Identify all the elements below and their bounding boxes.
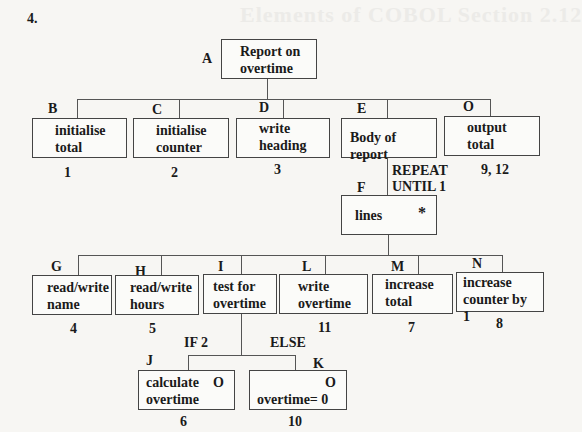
connector	[188, 355, 296, 356]
connector	[267, 79, 268, 99]
node-letter-f: F	[357, 180, 366, 196]
node-text: name	[47, 296, 103, 313]
question-number: 4.	[27, 11, 38, 27]
if-condition: IF 2	[184, 335, 208, 351]
node-text: initialise	[156, 122, 220, 139]
node-overtime-equals-zero: overtime= 0 O	[249, 370, 347, 410]
connector	[241, 314, 242, 355]
step-number: 1	[64, 165, 71, 181]
node-calculate-overtime: calculate overtime O	[138, 370, 235, 410]
connector	[387, 158, 388, 195]
node-letter-l: L	[302, 259, 311, 275]
node-initialise-total: initialise total	[32, 118, 127, 158]
node-body-of-report: Body of report	[341, 118, 437, 158]
connector	[161, 255, 162, 275]
node-text: overtime	[298, 295, 359, 312]
connector	[188, 355, 189, 370]
node-text: write	[298, 278, 359, 295]
connector	[325, 255, 326, 274]
node-write-heading: write heading	[236, 118, 330, 158]
node-letter-c: C	[152, 102, 162, 118]
step-number: 3	[274, 162, 281, 178]
node-text: heading	[259, 137, 321, 154]
condition-text: UNTIL 1	[392, 179, 448, 195]
connector	[387, 99, 388, 118]
iteration-marker-icon: *	[418, 204, 426, 221]
connector	[78, 255, 503, 256]
node-letter-g: G	[51, 259, 62, 275]
step-number: 11	[318, 320, 331, 336]
node-letter-o: O	[463, 99, 474, 115]
node-text: counter	[156, 139, 220, 156]
node-text: initialise	[55, 122, 118, 139]
connector	[283, 99, 284, 118]
node-text: test for	[213, 278, 268, 295]
step-number: 8	[496, 316, 503, 332]
node-text: total	[385, 293, 444, 310]
node-text: increase	[463, 274, 535, 291]
else-condition: ELSE	[270, 335, 306, 351]
node-text: Body of report	[350, 129, 428, 163]
node-letter-n: N	[472, 256, 482, 272]
node-text: output	[467, 119, 531, 136]
node-text: overtime	[213, 295, 268, 312]
node-text: overtime	[240, 60, 308, 77]
node-letter-b: B	[48, 101, 57, 117]
node-test-for-overtime: test for overtime	[203, 274, 277, 314]
connector	[418, 255, 419, 274]
connector	[502, 255, 503, 272]
node-read-write-hours: read/write hours	[115, 275, 199, 315]
node-letter-d: D	[259, 100, 269, 116]
connector	[295, 355, 296, 370]
step-number: 7	[408, 320, 415, 336]
node-text: overtime	[146, 391, 226, 408]
node-read-write-name: read/write name	[32, 275, 112, 315]
node-text: hours	[130, 296, 190, 313]
node-text: overtime= 0	[257, 391, 338, 408]
bleed-through-heading: Elements of COBOL Section 2.12	[240, 2, 582, 28]
node-initialise-counter: initialise counter	[133, 118, 229, 158]
step-number: 10	[288, 414, 302, 430]
step-number: 9, 12	[481, 162, 509, 178]
selection-marker-icon: O	[325, 374, 336, 391]
step-number: 6	[180, 414, 187, 430]
connector	[490, 99, 491, 116]
node-letter-j: J	[146, 353, 153, 369]
connector	[179, 99, 180, 118]
step-number: 5	[149, 321, 156, 337]
node-text: read/write	[130, 279, 190, 296]
node-letter-e: E	[357, 101, 366, 117]
node-text: Report on	[240, 43, 308, 60]
node-text: read/write	[47, 279, 103, 296]
connector	[388, 235, 389, 255]
connector	[241, 255, 242, 274]
node-text: total	[467, 136, 531, 153]
node-output-total: output total	[444, 116, 540, 156]
connector	[77, 99, 78, 118]
node-letter-m: M	[391, 259, 404, 275]
step-number: 4	[70, 321, 77, 337]
selection-marker-icon: O	[213, 374, 224, 391]
node-text: write	[259, 120, 321, 137]
node-report-on-overtime: Report on overtime	[221, 39, 317, 79]
node-increase-counter: increase counter by 1	[456, 272, 544, 312]
node-text: total	[55, 139, 118, 156]
connector	[78, 255, 79, 275]
node-write-overtime: write overtime	[279, 274, 368, 314]
node-text: increase	[385, 276, 444, 293]
node-lines: lines *	[341, 195, 437, 235]
repeat-condition: REPEAT UNTIL 1	[392, 163, 448, 195]
node-increase-total: increase total	[372, 274, 453, 314]
connector	[77, 99, 491, 100]
condition-text: REPEAT	[392, 163, 448, 179]
node-letter-i: I	[218, 259, 223, 275]
step-number: 2	[171, 165, 178, 181]
node-letter-a: A	[202, 51, 212, 67]
